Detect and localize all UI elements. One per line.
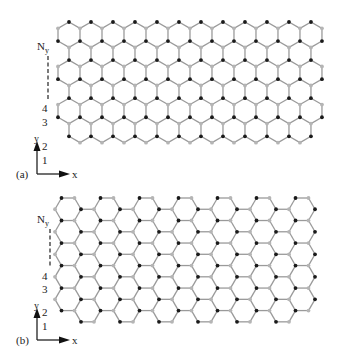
carbon-atom-sublattice-b [151, 241, 155, 245]
carbon-atom-sublattice-a [138, 309, 142, 313]
carbon-atom-sublattice-b [229, 286, 233, 290]
carbon-bond [172, 311, 179, 322]
carbon-atom-sublattice-a [133, 20, 137, 24]
carbon-bond [311, 79, 322, 85]
row-label-1: 1 [42, 154, 48, 166]
carbon-atom-sublattice-b [188, 141, 192, 145]
carbon-atom-sublattice-b [92, 275, 96, 279]
carbon-bond [114, 221, 121, 232]
row-label-4: 4 [42, 270, 48, 282]
carbon-bond [153, 288, 160, 299]
carbon-atom-sublattice-b [100, 141, 104, 145]
carbon-bond [231, 288, 238, 299]
carbon-atom-sublattice-b [177, 84, 181, 88]
carbon-atom-sublattice-b [265, 46, 269, 50]
carbon-bond [146, 41, 157, 47]
carbon-bond [157, 60, 168, 66]
carbon-atom-sublattice-b [209, 320, 213, 324]
carbon-atom-sublattice-a [99, 219, 103, 223]
carbon-bond [211, 221, 218, 232]
carbon-bond [270, 232, 277, 243]
carbon-atom-sublattice-a [313, 252, 317, 256]
carbon-bond [55, 277, 62, 288]
carbon-atom-sublattice-b [209, 230, 213, 234]
carbon-atom-sublattice-b [229, 309, 233, 313]
carbon-atom-sublattice-a [78, 115, 82, 119]
carbon-bond [223, 136, 234, 142]
carbon-atom-sublattice-b [122, 103, 126, 107]
carbon-bond [113, 60, 124, 66]
carbon-bond [133, 209, 140, 220]
carbon-bond [55, 232, 62, 243]
carbon-bond [270, 198, 277, 209]
carbon-bond [113, 98, 124, 104]
carbon-bond [289, 232, 296, 243]
carbon-atom-sublattice-a [298, 39, 302, 43]
carbon-atom-sublattice-b [243, 84, 247, 88]
carbon-bond [94, 266, 101, 277]
carbon-atom-sublattice-b [276, 26, 280, 30]
carbon-bond [300, 41, 311, 47]
carbon-atom-sublattice-a [265, 134, 269, 138]
carbon-atom-sublattice-b [92, 252, 96, 256]
carbon-atom-sublattice-b [78, 65, 82, 69]
carbon-atom-sublattice-b [56, 26, 60, 30]
carbon-bond [114, 198, 121, 209]
carbon-bond [309, 221, 316, 232]
carbon-atom-sublattice-a [313, 207, 317, 211]
carbon-bond [300, 79, 311, 85]
carbon-atom-sublattice-b [188, 65, 192, 69]
carbon-atom-sublattice-b [307, 309, 311, 313]
axis-arrows-icon [34, 308, 71, 344]
carbon-bond [94, 277, 101, 288]
carbon-bond [114, 254, 121, 265]
carbon-atom-sublattice-b [151, 286, 155, 290]
carbon-bond [192, 198, 199, 209]
carbon-atom-sublattice-b [144, 26, 148, 30]
carbon-bond [55, 243, 62, 254]
carbon-bond [311, 117, 322, 123]
carbon-bond [135, 79, 146, 85]
carbon-atom-sublattice-a [111, 20, 115, 24]
carbon-bond [250, 221, 257, 232]
carbon-atom-sublattice-a [177, 96, 181, 100]
carbon-atom-sublattice-b [67, 46, 71, 50]
carbon-atom-sublattice-b [131, 207, 135, 211]
carbon-atom-sublattice-b [170, 297, 174, 301]
carbon-atom-sublattice-b [320, 65, 324, 69]
carbon-bond [75, 299, 82, 310]
carbon-atom-sublattice-b [221, 46, 225, 50]
carbon-atom-sublattice-a [309, 134, 313, 138]
carbon-atom-sublattice-b [248, 297, 252, 301]
carbon-atom-sublattice-b [248, 230, 252, 234]
panel-b-annotations: Ny 4 3 2 1 (b) y x [16, 213, 78, 347]
carbon-atom-sublattice-b [188, 26, 192, 30]
carbon-bond [153, 299, 160, 310]
carbon-atom-sublattice-b [151, 219, 155, 223]
carbon-bond [172, 221, 179, 232]
carbon-atom-sublattice-a [188, 39, 192, 43]
carbon-bond [114, 266, 121, 277]
carbon-atom-sublattice-b [307, 219, 311, 223]
carbon-bond [172, 209, 179, 220]
carbon-bond [250, 198, 257, 209]
axis-label-x: x [72, 168, 78, 180]
carbon-bond [190, 79, 201, 85]
carbon-bond [223, 117, 234, 123]
carbon-atom-sublattice-b [53, 230, 57, 234]
carbon-atom-sublattice-a [274, 230, 278, 234]
carbon-atom-sublattice-a [313, 297, 317, 301]
carbon-atom-sublattice-a [221, 20, 225, 24]
carbon-atom-sublattice-b [53, 275, 57, 279]
carbon-atom-sublattice-b [276, 103, 280, 107]
row-label-1: 1 [42, 320, 48, 332]
carbon-atom-sublattice-a [133, 96, 137, 100]
carbon-bond [231, 221, 238, 232]
carbon-bond [270, 209, 277, 220]
carbon-atom-sublattice-b [287, 275, 291, 279]
carbon-atom-sublattice-a [235, 230, 239, 234]
carbon-bond [267, 41, 278, 47]
carbon-atom-sublattice-a [243, 96, 247, 100]
carbon-bond [75, 198, 82, 209]
carbon-atom-sublattice-b [210, 103, 214, 107]
